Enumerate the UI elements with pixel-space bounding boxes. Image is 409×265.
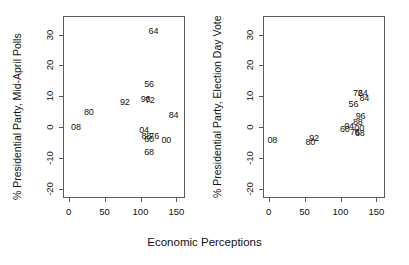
y-tick-mark bbox=[259, 35, 263, 36]
panel-election-day-vote: % Presidential Party, Election Day Vote … bbox=[205, 0, 409, 265]
data-point-label: 00 bbox=[162, 136, 172, 145]
x-tick-mark bbox=[105, 198, 106, 202]
x-tick-label: 0 bbox=[266, 206, 271, 217]
panel-mid-april-polls: % Presidential Party, Mid-April Polls -2… bbox=[0, 0, 204, 265]
x-tick-label: 50 bbox=[299, 206, 310, 217]
y-tick-label: 10 bbox=[44, 91, 55, 102]
y-tick-label: 20 bbox=[244, 60, 255, 71]
x-tick-label: 0 bbox=[66, 206, 71, 217]
data-point-label: 72 bbox=[145, 96, 155, 105]
x-tick-label: 100 bbox=[133, 206, 149, 217]
y-tick-label: 0 bbox=[44, 124, 55, 129]
y-tick-mark bbox=[259, 158, 263, 159]
scatter-plot-figure: % Presidential Party, Mid-April Polls -2… bbox=[0, 0, 409, 265]
data-point-label: 08 bbox=[71, 123, 81, 132]
data-point-label: 56 bbox=[144, 79, 154, 88]
y-tick-label: 20 bbox=[44, 60, 55, 71]
y-tick-label: -20 bbox=[44, 182, 55, 196]
y-tick-mark bbox=[59, 96, 63, 97]
data-point-label: 56 bbox=[349, 100, 359, 109]
data-point-label: 64 bbox=[149, 27, 159, 36]
y-tick-label: 0 bbox=[244, 124, 255, 129]
x-axis-title: Economic Perceptions bbox=[0, 236, 409, 248]
data-point-label: 60 bbox=[144, 135, 154, 144]
x-tick-label: 150 bbox=[168, 206, 184, 217]
plot-frame-left bbox=[63, 16, 185, 198]
y-tick-mark bbox=[259, 127, 263, 128]
y-tick-label: 30 bbox=[44, 29, 55, 40]
y-tick-label: -20 bbox=[244, 182, 255, 196]
x-tick-mark bbox=[376, 198, 377, 202]
x-tick-label: 100 bbox=[333, 206, 349, 217]
x-tick-mark bbox=[269, 198, 270, 202]
x-tick-label: 150 bbox=[368, 206, 384, 217]
y-tick-mark bbox=[259, 65, 263, 66]
data-point-label: 68 bbox=[355, 128, 365, 137]
data-point-label: 84 bbox=[169, 110, 179, 119]
data-point-label: 84 bbox=[359, 94, 369, 103]
data-point-label: 80 bbox=[306, 138, 316, 147]
x-tick-mark bbox=[176, 198, 177, 202]
x-tick-label: 50 bbox=[99, 206, 110, 217]
x-tick-mark bbox=[141, 198, 142, 202]
data-point-label: 60 bbox=[340, 124, 350, 133]
data-point-label: 92 bbox=[120, 98, 130, 107]
y-tick-mark bbox=[259, 189, 263, 190]
y-axis-title-right: % Presidential Party, Election Day Vote bbox=[211, 16, 223, 198]
y-axis-title-left: % Presidential Party, Mid-April Polls bbox=[11, 33, 23, 200]
y-tick-mark bbox=[59, 158, 63, 159]
y-tick-label: -10 bbox=[244, 151, 255, 165]
y-tick-label: 30 bbox=[244, 29, 255, 40]
x-tick-mark bbox=[341, 198, 342, 202]
y-tick-mark bbox=[59, 65, 63, 66]
y-tick-mark bbox=[59, 35, 63, 36]
y-tick-mark bbox=[259, 96, 263, 97]
data-point-label: 68 bbox=[144, 147, 154, 156]
y-tick-label: -10 bbox=[44, 151, 55, 165]
y-tick-mark bbox=[59, 127, 63, 128]
x-tick-mark bbox=[305, 198, 306, 202]
data-point-label: 08 bbox=[268, 136, 278, 145]
x-tick-mark bbox=[69, 198, 70, 202]
y-tick-label: 10 bbox=[244, 91, 255, 102]
data-point-label: 80 bbox=[84, 107, 94, 116]
plot-frame-right bbox=[263, 16, 385, 198]
y-tick-mark bbox=[59, 189, 63, 190]
